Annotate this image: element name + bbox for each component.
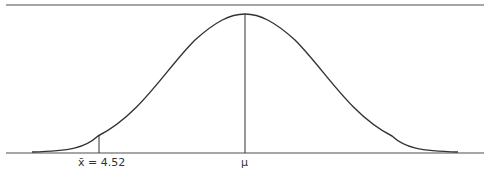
normal-curve-diagram (0, 0, 489, 177)
sample-mean-label: x̄ = 4.52 (78, 156, 125, 169)
population-mean-label: μ (241, 156, 248, 169)
